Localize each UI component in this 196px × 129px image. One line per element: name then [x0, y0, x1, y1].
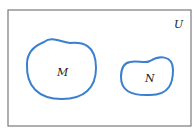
set-n-label: N	[144, 72, 155, 85]
set-m-label: M	[56, 66, 69, 79]
universe-rectangle	[8, 10, 191, 126]
universe-label: U	[174, 18, 184, 31]
venn-diagram: U M N	[0, 0, 196, 129]
